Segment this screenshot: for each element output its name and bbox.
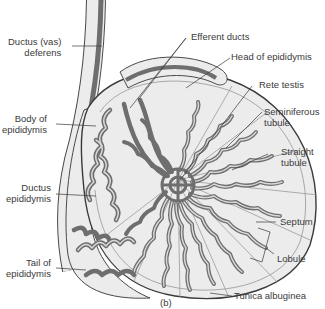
label-rete-testis: Rete testis [259,80,304,91]
label-septum: Septum [280,217,313,228]
label-efferent-ducts: Efferent ducts [191,32,249,43]
label-head-of-epididymis: Head of epididymis [231,52,312,63]
label-body-of-epididymis: Body of epididymis [2,114,47,135]
label-tunica-albuginea: Tunica albuginea [234,291,306,302]
label-straight-tubule: Straight tubule [281,147,314,168]
rete-testis [162,169,194,201]
label-tail-of-epididymis: Tail of epididymis [6,258,51,279]
label-seminiferous-tubule: Seminiferous tubule [264,107,319,128]
panel-label: (b) [160,298,172,309]
label-ductus-epididymis: Ductus epididymis [6,183,51,204]
label-lobule: Lobule [277,254,306,265]
testis-diagram: Ductus (vas) deferens Body of epididymis… [0,0,325,309]
label-ductus-deferens: Ductus (vas) deferens [8,37,61,58]
